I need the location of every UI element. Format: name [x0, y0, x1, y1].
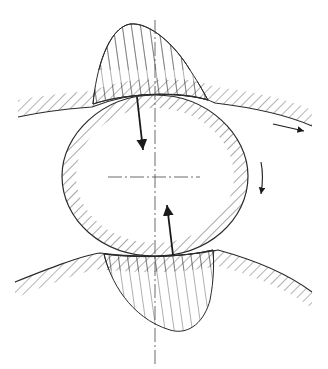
rotation-arrow: [261, 162, 263, 194]
bearing-contact-diagram: [0, 0, 328, 369]
diagram-canvas: [0, 0, 328, 369]
raceway-motion-arrow: [273, 124, 304, 131]
